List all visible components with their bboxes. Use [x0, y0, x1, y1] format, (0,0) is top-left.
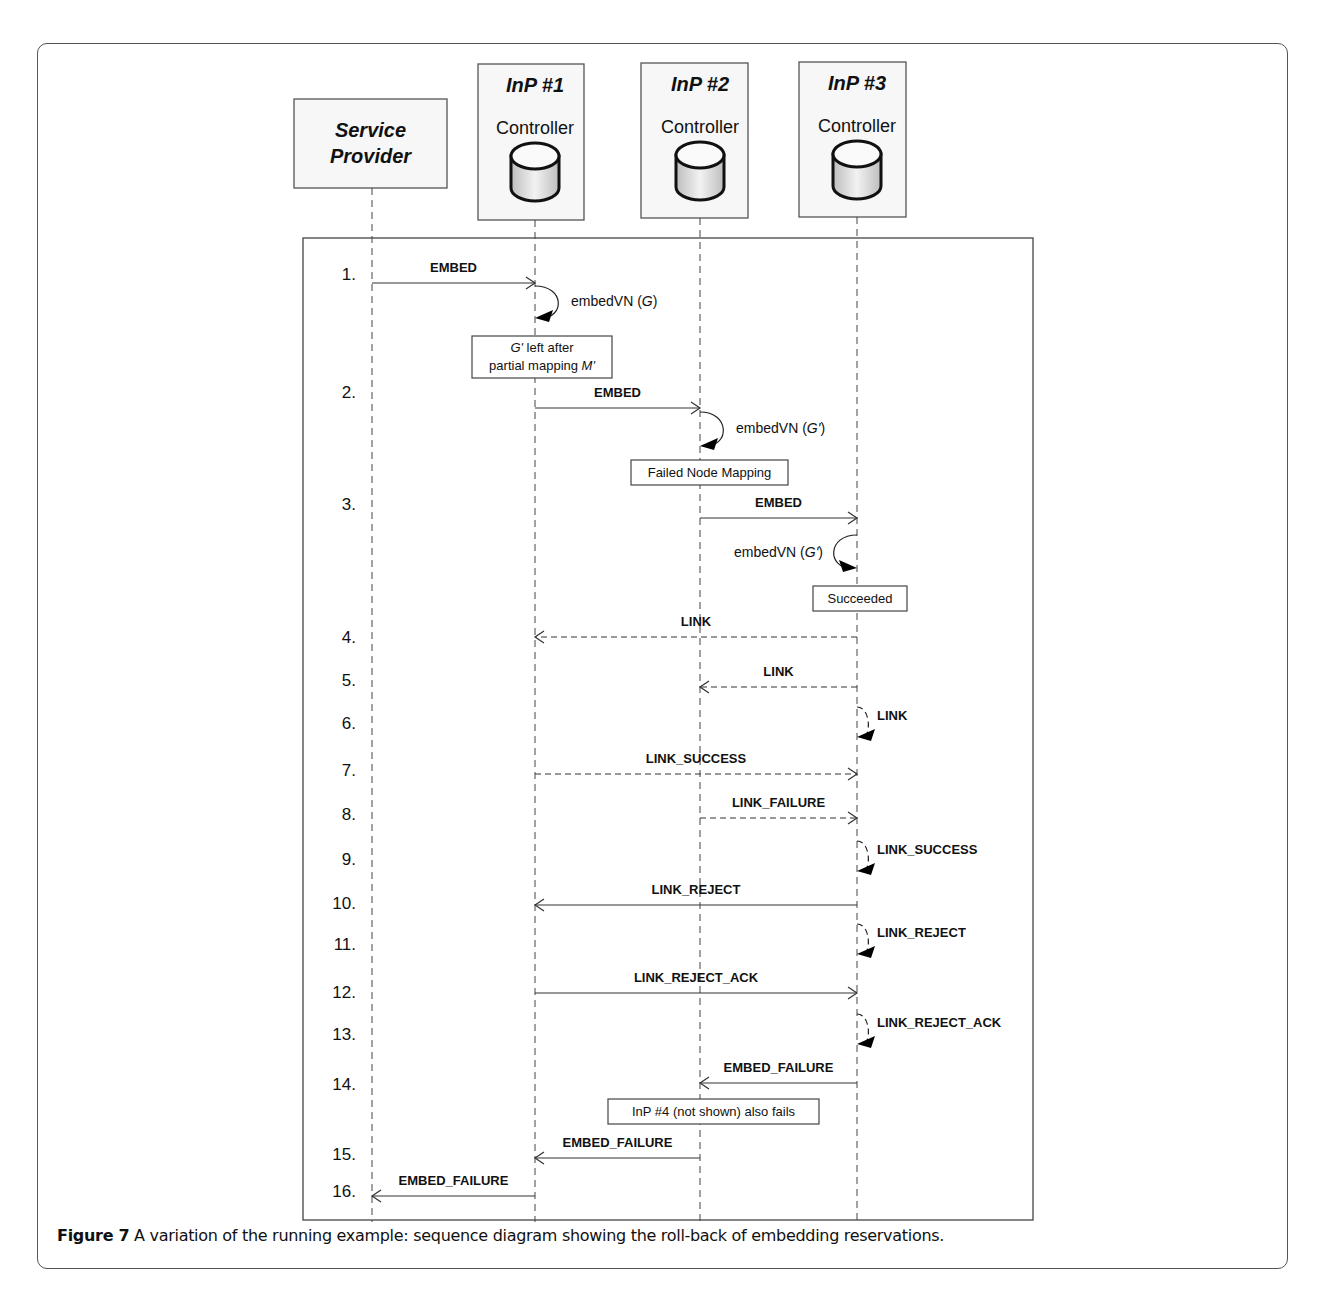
message-label: EMBED [755, 495, 802, 510]
participant-inp3: InP #3Controller [799, 62, 906, 217]
caption-text: A variation of the running example: sequ… [129, 1226, 944, 1245]
participant-title: Service [335, 119, 406, 141]
note-succeeded: Succeeded [813, 586, 907, 611]
arrowhead-filled [857, 863, 875, 875]
message-label: LINK_FAILURE [732, 795, 826, 810]
step-number: 2. [342, 383, 356, 402]
message-label: embedVN (G) [571, 293, 657, 309]
participant-subtitle: Controller [818, 116, 896, 136]
step-number: 11. [334, 935, 356, 954]
step-number: 9. [342, 850, 356, 869]
message-4-link: LINK [535, 614, 857, 643]
figure-label: Figure 7 [57, 1226, 129, 1245]
participant-title: InP #1 [506, 74, 564, 96]
arrowhead-filled [857, 729, 875, 741]
step-number: 5. [342, 671, 356, 690]
message-8-link-failure: LINK_FAILURE [700, 795, 857, 824]
participant-title: InP #3 [828, 72, 886, 94]
message-label: LINK_REJECT [877, 925, 966, 940]
message-16-embed-failure: EMBED_FAILURE [372, 1173, 535, 1202]
note-text: InP #4 (not shown) also fails [632, 1104, 796, 1119]
message-label: LINK_SUCCESS [877, 842, 978, 857]
note-failed-node-mapping: Failed Node Mapping [631, 460, 788, 485]
message-label: EMBED [594, 385, 641, 400]
message-label: EMBED_FAILURE [724, 1060, 834, 1075]
message-label: LINK [877, 708, 908, 723]
message-label: EMBED_FAILURE [399, 1173, 509, 1188]
step-number: 4. [342, 628, 356, 647]
message-3-embedvn-g-: embedVN (G') [734, 535, 857, 572]
note-text: Succeeded [827, 591, 892, 606]
self-call-arc [857, 1014, 868, 1044]
arrowhead-filled [857, 946, 875, 958]
participant-sp: ServiceProvider [294, 99, 447, 188]
sequence-diagram: ServiceProviderInP #1ControllerInP #2Con… [0, 0, 1326, 1289]
step-number: 16. [332, 1182, 356, 1201]
participant-title: InP #2 [671, 73, 729, 95]
message-6-link: LINK [857, 707, 908, 741]
message-2-embed: EMBED [535, 385, 700, 414]
database-icon [676, 142, 724, 200]
arrowhead-filled [535, 310, 553, 322]
message-label: LINK [681, 614, 712, 629]
step-number: 14. [332, 1075, 356, 1094]
participant-box [294, 99, 447, 188]
step-number: 7. [342, 761, 356, 780]
figure-caption: Figure 7 A variation of the running exam… [57, 1226, 944, 1245]
self-call-arc [857, 924, 868, 954]
message-label: LINK_REJECT [652, 882, 741, 897]
message-13-link-reject-ack: LINK_REJECT_ACK [857, 1014, 1002, 1048]
message-5-link: LINK [700, 664, 857, 693]
self-call-arc [857, 707, 868, 737]
message-label: embedVN (G') [736, 420, 825, 436]
message-15-embed-failure: EMBED_FAILURE [535, 1135, 700, 1164]
message-7-link-success: LINK_SUCCESS [535, 751, 857, 780]
sequence-box [303, 238, 1033, 1220]
note-inp4-fails: InP #4 (not shown) also fails [608, 1099, 819, 1124]
step-number: 13. [332, 1025, 356, 1044]
note-text: G' left after [510, 340, 574, 355]
participant-subtitle: Controller [496, 118, 574, 138]
database-icon [833, 141, 881, 199]
database-icon [511, 143, 559, 201]
participant-inp1: InP #1Controller [478, 64, 584, 220]
message-label: EMBED [430, 260, 477, 275]
message-1-embedvn-g-: embedVN (G) [535, 286, 657, 322]
note-partial-mapping: G' left afterpartial mapping M' [472, 336, 612, 378]
arrowhead-filled [857, 1036, 875, 1048]
step-number: 3. [342, 495, 356, 514]
self-call-arc [857, 841, 868, 871]
step-number: 12. [332, 983, 356, 1002]
message-label: EMBED_FAILURE [563, 1135, 673, 1150]
step-number: 6. [342, 714, 356, 733]
message-label: LINK_SUCCESS [646, 751, 747, 766]
participant-inp2: InP #2Controller [641, 63, 748, 218]
arrowhead-filled [700, 438, 718, 450]
arrowhead-filled [839, 560, 857, 572]
participant-title-line2: Provider [330, 145, 412, 167]
note-text: partial mapping M' [489, 358, 595, 373]
message-9-link-success: LINK_SUCCESS [857, 841, 978, 875]
step-number: 1. [342, 265, 356, 284]
message-14-embed-failure: EMBED_FAILURE [700, 1060, 857, 1089]
message-label: embedVN (G') [734, 544, 823, 560]
message-12-link-reject-ack: LINK_REJECT_ACK [535, 970, 857, 999]
note-text: Failed Node Mapping [648, 465, 772, 480]
message-label: LINK [763, 664, 794, 679]
step-number: 8. [342, 805, 356, 824]
message-3-embed: EMBED [700, 495, 857, 524]
message-11-link-reject: LINK_REJECT [857, 924, 966, 958]
step-number: 15. [332, 1145, 356, 1164]
message-label: LINK_REJECT_ACK [877, 1015, 1002, 1030]
message-label: LINK_REJECT_ACK [634, 970, 759, 985]
message-1-embed: EMBED [372, 260, 535, 289]
participant-subtitle: Controller [661, 117, 739, 137]
message-10-link-reject: LINK_REJECT [535, 882, 857, 911]
step-number: 10. [332, 894, 356, 913]
message-2-embedvn-g-: embedVN (G') [700, 412, 825, 450]
